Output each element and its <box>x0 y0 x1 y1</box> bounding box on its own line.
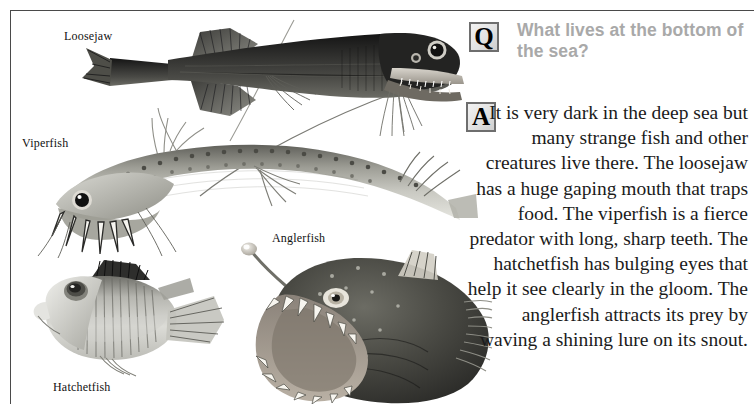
anglerfish-eye-highlight <box>331 294 335 297</box>
viperfish-pupil <box>75 193 89 207</box>
question-text: What lives at the bottom of the sea? <box>517 20 749 62</box>
hatchetfish-eye-highlight <box>70 285 74 288</box>
label-anglerfish: Anglerfish <box>272 231 325 246</box>
viperfish-illustration <box>8 108 478 258</box>
viperfish-pectoral-fin <box>254 166 300 206</box>
label-loosejaw: Loosejaw <box>64 29 112 44</box>
hatchetfish-adipose-fin <box>158 278 194 300</box>
anglerfish-lure-glow <box>244 245 250 250</box>
anglerfish-illustration <box>212 240 492 404</box>
anglerfish-illicium <box>252 252 286 286</box>
answer-text: It is very dark in the deep sea but many… <box>462 100 748 352</box>
hatchetfish-illustration <box>18 258 228 378</box>
page-canvas: Loosejaw Viperfish Anglerfish Hatchetfis… <box>0 0 754 404</box>
label-hatchetfish: Hatchetfish <box>53 380 111 395</box>
qa-text-column: Q What lives at the bottom of the sea? A… <box>462 14 748 394</box>
loosejaw-eye-highlight <box>433 46 437 50</box>
loosejaw-photophore-core <box>413 55 419 61</box>
viperfish-eye-highlight <box>77 195 81 199</box>
label-viperfish: Viperfish <box>22 136 68 151</box>
anglerfish-lure <box>241 243 257 256</box>
hatchetfish-pupil <box>69 283 81 292</box>
loosejaw-pupil <box>430 43 443 56</box>
loosejaw-peduncle <box>110 58 172 86</box>
question-badge: Q <box>469 22 499 52</box>
